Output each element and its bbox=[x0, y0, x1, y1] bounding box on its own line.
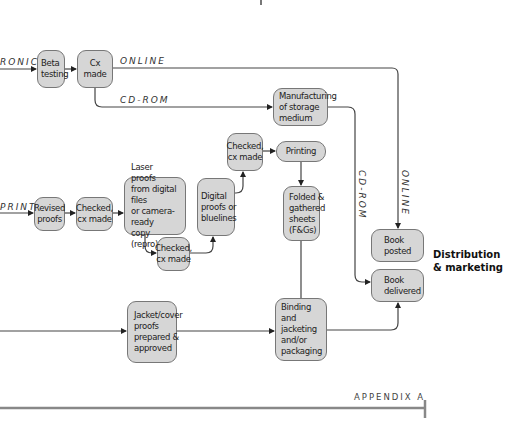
box-book-posted: Book posted bbox=[371, 229, 424, 262]
flow-label-cdrom: CD-ROM bbox=[120, 95, 170, 105]
section-distribution-marketing: Distribution & marketing bbox=[433, 248, 503, 274]
box-checked-2: Checked, cx made bbox=[157, 237, 190, 271]
box-revised-proofs: Revised proofs bbox=[34, 197, 65, 231]
box-printing: Printing bbox=[276, 141, 326, 162]
box-beta-testing: Beta testing bbox=[37, 50, 65, 88]
box-cx-made: Cx made bbox=[77, 50, 113, 88]
box-folded-gathered: Folded & gathered sheets (F&Gs) bbox=[283, 186, 320, 241]
flow-label-electronic: RONIC bbox=[0, 57, 39, 67]
box-binding: Binding and jacketing and/or packaging bbox=[275, 298, 327, 361]
box-checked-3: Checked, cx made bbox=[227, 133, 263, 171]
flow-label-cdrom-vertical: CD-ROM bbox=[357, 170, 367, 220]
box-book-delivered: Book delivered bbox=[371, 269, 424, 302]
flow-label-print: PRINT bbox=[0, 202, 37, 212]
box-digital-proofs: Digital proofs or bluelines bbox=[197, 178, 235, 236]
box-manufacturing: Manufacturing of storage medium bbox=[273, 88, 328, 126]
box-laser-proofs: Laser proofs from digital files or camer… bbox=[124, 177, 186, 235]
flow-label-online: ONLINE bbox=[120, 56, 166, 66]
footer-appendix-label: APPENDIX A bbox=[354, 392, 425, 402]
box-checked-1: Checked, cx made bbox=[76, 197, 113, 231]
box-jacket-cover: Jacket/cover proofs prepared & approved bbox=[127, 301, 177, 363]
flow-label-online-vertical: ONLINE bbox=[400, 170, 410, 216]
